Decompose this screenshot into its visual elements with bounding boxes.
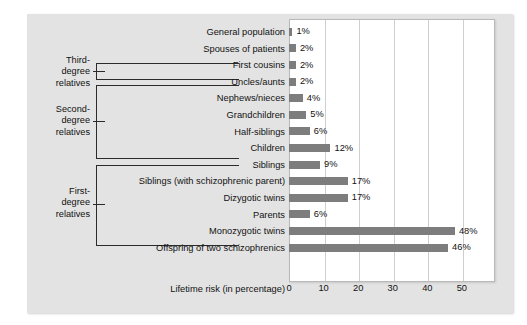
chart-row: Half-siblings (0, 124, 527, 141)
chart-row: Uncles/aunts (0, 74, 527, 91)
category-label: Uncles/aunts (231, 74, 285, 91)
bar (289, 94, 303, 102)
x-axis: 01020304050 (289, 283, 493, 299)
chart-row: Spouses of patients (0, 41, 527, 58)
x-tick-30: 30 (388, 283, 398, 293)
chart-row: Nephews/nieces (0, 90, 527, 107)
category-label: Nephews/nieces (217, 90, 285, 107)
category-label: Monozygotic twins (209, 223, 285, 240)
bar (289, 177, 348, 185)
category-label: Children (250, 140, 285, 157)
bar-value-label: 12% (334, 144, 353, 152)
x-tick-0: 0 (286, 283, 291, 293)
chart-row: Siblings (0, 157, 527, 174)
bar-value-label: 48% (459, 227, 478, 235)
chart-row: General population (0, 24, 527, 41)
figure-root: Third- degree relatives Second- degree r… (0, 0, 527, 325)
chart-row: Parents (0, 207, 527, 224)
bar (289, 210, 310, 218)
category-label: General population (206, 24, 285, 41)
bar-value-label: 6% (314, 127, 327, 135)
bar (289, 194, 348, 202)
category-label: First cousins (233, 57, 285, 74)
chart-rows: General populationSpouses of patientsFir… (0, 0, 527, 325)
x-axis-title: Lifetime risk (in percentage) (170, 283, 285, 295)
x-tick-10: 10 (318, 283, 328, 293)
bar-value-label: 17% (352, 177, 371, 185)
bar-value-label: 46% (452, 243, 471, 251)
bar-value-label: 17% (352, 193, 371, 201)
category-label: Spouses of patients (203, 41, 285, 58)
bar-value-label: 4% (307, 94, 320, 102)
bar-value-label: 2% (300, 44, 313, 52)
bar-value-label: 2% (300, 61, 313, 69)
bar (289, 44, 296, 52)
bar (289, 161, 320, 169)
chart-row: Dizygotic twins (0, 190, 527, 207)
bar-value-label: 2% (300, 77, 313, 85)
category-label: Half-siblings (234, 124, 285, 141)
bar (289, 227, 455, 235)
x-tick-50: 50 (457, 283, 467, 293)
bar (289, 111, 306, 119)
bar (289, 28, 292, 36)
category-label: Siblings (252, 157, 285, 174)
category-label: Offspring of two schizophrenics (156, 240, 285, 257)
category-label: Parents (253, 207, 285, 224)
bar-value-label: 1% (296, 27, 309, 35)
x-tick-20: 20 (353, 283, 363, 293)
bar (289, 127, 310, 135)
bar-value-label: 5% (310, 110, 323, 118)
bar (289, 144, 330, 152)
x-tick-40: 40 (422, 283, 432, 293)
category-label: Siblings (with schizophrenic parent) (139, 173, 285, 190)
bar (289, 244, 448, 252)
chart-row: Grandchildren (0, 107, 527, 124)
chart-row: Children (0, 140, 527, 157)
chart-row: First cousins (0, 57, 527, 74)
chart-row: Siblings (with schizophrenic parent) (0, 173, 527, 190)
bar-value-label: 6% (314, 210, 327, 218)
category-label: Dizygotic twins (224, 190, 285, 207)
bar-value-label: 9% (324, 160, 337, 168)
bar (289, 78, 296, 86)
bar (289, 61, 296, 69)
category-label: Grandchildren (227, 107, 285, 124)
